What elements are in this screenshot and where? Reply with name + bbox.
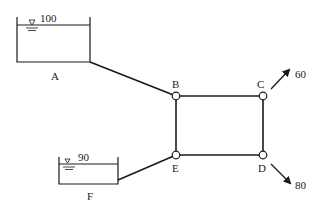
- reservoir-f: 90 F: [59, 151, 118, 202]
- node-c-label: C: [257, 78, 264, 90]
- pipe-network-diagram: 100 A 90 F B C D E 60 80: [0, 0, 322, 210]
- outflow-c-arrow-icon: [271, 70, 289, 89]
- node-d: [259, 151, 267, 159]
- reservoir-a-label: A: [51, 70, 59, 82]
- reservoir-a: 100 A: [17, 12, 90, 82]
- pipe-a-b: [90, 62, 176, 96]
- reservoir-f-label: F: [87, 190, 93, 202]
- node-b-label: B: [172, 78, 179, 90]
- node-e: [172, 151, 180, 159]
- outflow-d-arrow-icon: [271, 164, 290, 183]
- pipe-f-e: [118, 155, 176, 180]
- reservoir-a-level: 100: [40, 12, 57, 24]
- nodes: [172, 92, 267, 159]
- node-e-label: E: [172, 162, 179, 174]
- outflow-d-value: 80: [295, 179, 307, 191]
- node-c: [259, 92, 267, 100]
- reservoir-f-level: 90: [78, 151, 90, 163]
- node-d-label: D: [258, 162, 266, 174]
- node-b: [172, 92, 180, 100]
- outflow-c-value: 60: [295, 68, 307, 80]
